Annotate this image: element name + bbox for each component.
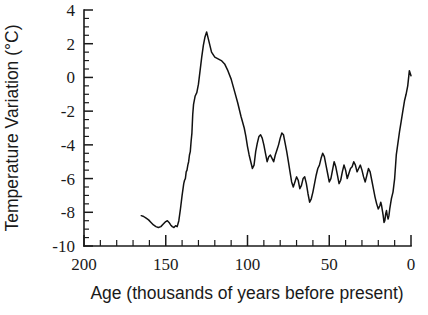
y-axis-title: Temperature Variation (°C)	[2, 24, 22, 231]
x-axis-tick-labels: 200150100500	[71, 255, 415, 274]
chart-canvas: 420-2-4-6-8-10 200150100500 Age (thousan…	[0, 0, 428, 315]
y-tick-label: 4	[67, 1, 76, 20]
plot-area	[141, 32, 411, 228]
y-tick-label: 2	[67, 35, 76, 54]
y-axis-tick-labels: 420-2-4-6-8-10	[52, 1, 75, 256]
x-axis-group: 200150100500	[71, 235, 415, 274]
temperature-variation-chart-figure: 420-2-4-6-8-10 200150100500 Age (thousan…	[0, 0, 428, 315]
x-axis-title: Age (thousands of years before present)	[90, 283, 403, 303]
y-tick-label: -8	[61, 203, 75, 222]
y-tick-label: -6	[61, 170, 75, 189]
y-tick-label: -2	[61, 102, 75, 121]
x-tick-label: 0	[407, 255, 416, 274]
temperature-series-line	[141, 32, 411, 228]
x-tick-label: 50	[321, 255, 338, 274]
x-tick-label: 100	[235, 255, 261, 274]
x-tick-label: 150	[153, 255, 179, 274]
y-tick-label: -4	[61, 136, 76, 155]
y-axis-group: 420-2-4-6-8-10	[52, 1, 93, 256]
y-tick-label: 0	[67, 68, 76, 87]
x-tick-label: 200	[71, 255, 97, 274]
y-tick-label: -10	[52, 237, 75, 256]
